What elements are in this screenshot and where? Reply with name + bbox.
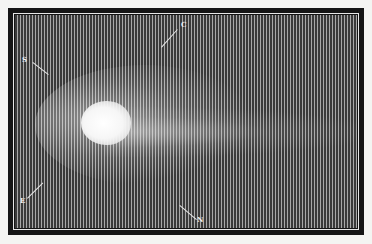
label-c: C xyxy=(181,21,187,28)
pointer-line-s xyxy=(32,62,48,75)
comet-nucleus xyxy=(81,101,131,145)
label-s: S xyxy=(22,56,27,63)
engraving-frame: S C E N xyxy=(8,8,364,235)
label-n: N xyxy=(197,216,203,223)
pointer-line-n xyxy=(179,205,196,220)
pointer-line-c xyxy=(161,29,178,48)
pointer-line-e xyxy=(27,182,43,198)
label-e: E xyxy=(20,197,25,204)
comet-tail xyxy=(105,107,357,157)
night-sky-field: S C E N xyxy=(15,15,357,228)
